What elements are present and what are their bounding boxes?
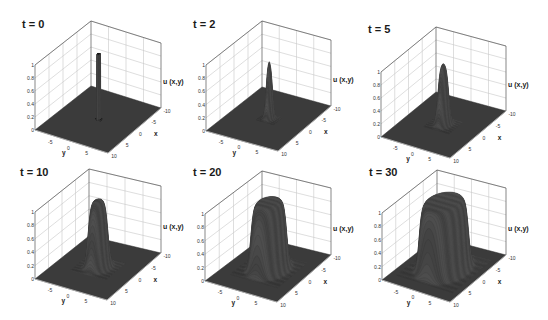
surface-panel-t0: 00.20.40.60.81-505y-10-50510xu (x,y)t = … <box>22 18 184 159</box>
svg-text:0.4: 0.4 <box>27 101 34 107</box>
svg-text:0: 0 <box>237 295 240 301</box>
x-axis-label: x <box>154 130 158 137</box>
svg-text:0.6: 0.6 <box>27 236 34 242</box>
svg-text:0.6: 0.6 <box>198 88 205 94</box>
svg-text:0: 0 <box>483 135 486 141</box>
y-axis-label: y <box>62 297 66 305</box>
svg-text:0.2: 0.2 <box>27 114 34 120</box>
svg-text:0: 0 <box>412 294 415 300</box>
svg-text:5: 5 <box>85 298 88 304</box>
x-axis-label: x <box>324 128 328 135</box>
z-axis-label: u (x,y) <box>333 76 354 84</box>
svg-text:1: 1 <box>377 69 380 75</box>
svg-text:0.8: 0.8 <box>374 223 381 229</box>
svg-text:0.8: 0.8 <box>27 75 34 81</box>
svg-text:0.6: 0.6 <box>374 237 381 243</box>
svg-text:0: 0 <box>377 134 380 140</box>
svg-text:0.4: 0.4 <box>27 249 34 255</box>
svg-text:10: 10 <box>453 158 459 164</box>
svg-text:-10: -10 <box>163 108 170 114</box>
surface-panel-t10: 00.20.40.60.81-505y-10-50510xu (x,y)t = … <box>20 166 184 306</box>
svg-text:1: 1 <box>201 211 204 217</box>
panel-title: t = 2 <box>193 18 215 30</box>
svg-text:0.4: 0.4 <box>374 250 381 256</box>
z-axis-ticks: 00.20.40.60.81 <box>27 209 34 282</box>
svg-text:0.2: 0.2 <box>27 263 34 269</box>
svg-text:5: 5 <box>85 150 88 156</box>
svg-text:0: 0 <box>411 151 414 157</box>
z-axis-ticks: 00.20.40.60.81 <box>198 62 205 134</box>
svg-text:5: 5 <box>469 146 472 152</box>
svg-text:0: 0 <box>31 276 34 282</box>
svg-text:0.6: 0.6 <box>373 95 380 101</box>
panel-title: t = 20 <box>193 166 221 178</box>
svg-text:0.6: 0.6 <box>27 88 34 94</box>
svg-text:-5: -5 <box>48 139 53 145</box>
svg-text:-10: -10 <box>333 106 340 112</box>
svg-text:0: 0 <box>238 144 241 150</box>
svg-text:0.4: 0.4 <box>197 251 204 257</box>
svg-text:0: 0 <box>309 129 312 135</box>
svg-text:-5: -5 <box>48 287 53 293</box>
svg-text:5: 5 <box>126 142 129 148</box>
z-axis-ticks: 00.20.40.60.81 <box>373 69 380 140</box>
svg-text:0.2: 0.2 <box>198 115 205 121</box>
svg-text:0.6: 0.6 <box>197 238 204 244</box>
svg-text:5: 5 <box>256 149 259 155</box>
svg-text:0.8: 0.8 <box>197 224 204 230</box>
svg-text:-5: -5 <box>496 123 501 129</box>
figure-canvas: 00.20.40.60.81-505y-10-50510xu (x,y)t = … <box>0 0 548 320</box>
x-axis-label: x <box>498 134 502 141</box>
svg-text:1: 1 <box>31 62 34 68</box>
surface-panel-t30: 00.20.40.60.81-505y-10-50510xu (x,y)t = … <box>369 166 529 308</box>
z-axis-label: u (x,y) <box>508 225 529 233</box>
svg-text:5: 5 <box>428 156 431 162</box>
svg-text:0: 0 <box>31 127 34 133</box>
svg-text:-5: -5 <box>321 267 326 273</box>
z-axis-ticks: 00.20.40.60.81 <box>197 211 204 284</box>
svg-text:10: 10 <box>281 151 287 157</box>
x-axis-label: x <box>154 276 158 283</box>
x-axis-label: x <box>498 278 502 285</box>
svg-text:-10: -10 <box>333 255 340 261</box>
panel-title: t = 30 <box>369 166 397 178</box>
svg-text:-10: -10 <box>163 253 170 259</box>
svg-text:1: 1 <box>202 62 205 68</box>
svg-text:-5: -5 <box>151 265 156 271</box>
surface-panel-t20: 00.20.40.60.81-505y-10-50510xu (x,y)t = … <box>193 166 354 308</box>
y-axis-label: y <box>407 299 411 307</box>
svg-text:0: 0 <box>309 279 312 285</box>
svg-text:-5: -5 <box>152 119 157 125</box>
z-axis-label: u (x,y) <box>163 78 184 86</box>
svg-text:5: 5 <box>296 140 299 146</box>
svg-text:0.8: 0.8 <box>27 222 34 228</box>
z-axis-ticks: 00.20.40.60.81 <box>27 62 34 133</box>
svg-text:-5: -5 <box>322 117 327 123</box>
svg-text:0: 0 <box>67 145 70 151</box>
svg-text:0: 0 <box>202 128 205 134</box>
svg-text:5: 5 <box>429 300 432 306</box>
svg-text:-5: -5 <box>394 289 399 295</box>
svg-text:10: 10 <box>280 302 286 308</box>
y-axis-label: y <box>62 149 66 157</box>
svg-text:0: 0 <box>139 277 142 283</box>
svg-text:5: 5 <box>295 290 298 296</box>
x-axis-label: x <box>324 278 328 285</box>
surface-panel-t5: 00.20.40.60.81-505y-10-50510xu (x,y)t = … <box>368 23 529 164</box>
panel-title: t = 5 <box>368 23 390 35</box>
svg-text:0.8: 0.8 <box>198 75 205 81</box>
svg-text:0.4: 0.4 <box>373 108 380 114</box>
svg-text:-5: -5 <box>218 289 223 295</box>
svg-text:-10: -10 <box>508 255 515 261</box>
svg-text:5: 5 <box>469 290 472 296</box>
svg-text:0.2: 0.2 <box>374 264 381 270</box>
svg-text:0: 0 <box>201 278 204 284</box>
svg-text:0.4: 0.4 <box>198 102 205 108</box>
panel-title: t = 10 <box>20 166 48 178</box>
svg-text:-5: -5 <box>393 145 398 151</box>
svg-text:1: 1 <box>378 210 381 216</box>
y-axis-label: y <box>406 155 410 163</box>
y-axis-label: y <box>233 149 237 157</box>
svg-text:10: 10 <box>110 300 116 306</box>
svg-text:0: 0 <box>139 131 142 137</box>
